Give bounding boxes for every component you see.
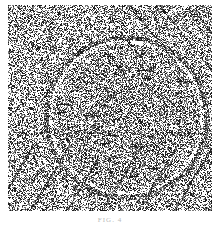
halftone-micrograph xyxy=(8,5,212,211)
figure-image xyxy=(8,5,212,211)
figure-caption: FIG. 4 xyxy=(0,216,220,224)
